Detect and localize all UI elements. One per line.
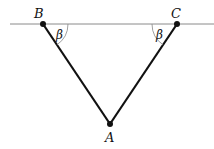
segment-ba	[43, 24, 110, 124]
label-a: A	[104, 130, 114, 145]
angle-label-c: β	[155, 28, 163, 42]
angle-label-b: β	[55, 28, 63, 42]
label-c: C	[171, 6, 181, 21]
geometry-diagram: B C A β β	[0, 0, 214, 149]
point-a	[107, 121, 113, 127]
label-b: B	[33, 6, 44, 21]
point-b	[40, 21, 46, 27]
point-c	[174, 21, 180, 27]
segment-ca	[110, 24, 177, 124]
